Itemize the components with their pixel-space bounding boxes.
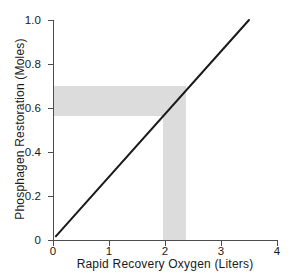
x-tick-label: 1 [106, 245, 113, 257]
y-tick-mark [48, 152, 53, 153]
data-line-layer [0, 0, 292, 275]
y-tick-label: 0.2 [25, 190, 41, 202]
y-tick-label: 0 [35, 234, 42, 246]
y-tick-mark [48, 108, 53, 109]
data-series-line [56, 20, 249, 236]
y-tick-label: 0.4 [25, 146, 41, 158]
y-tick-label: 0.8 [25, 58, 41, 70]
x-tick-label: 4 [274, 245, 281, 257]
x-tick-label: 2 [162, 245, 169, 257]
y-tick-label: 0.6 [25, 102, 41, 114]
y-axis-title: Phosphagen Restoration (Moles) [13, 17, 27, 241]
x-tick-label: 3 [218, 245, 225, 257]
chart-figure: 00.20.40.60.81.001234 Rapid Recovery Oxy… [0, 0, 292, 275]
x-axis-title: Rapid Recovery Oxygen (Liters) [53, 257, 277, 271]
y-tick-label: 1.0 [25, 14, 41, 26]
y-tick-mark [48, 196, 53, 197]
x-tick-label: 0 [50, 245, 57, 257]
y-tick-mark [48, 20, 53, 21]
y-tick-mark [48, 64, 53, 65]
y-tick-mark [48, 240, 53, 241]
y-axis-line [53, 20, 54, 241]
